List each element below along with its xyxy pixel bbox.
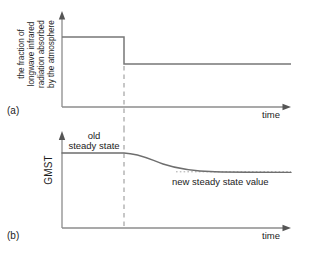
panel-a-y-axis-arrowhead bbox=[59, 11, 65, 20]
panel-a-y-axis-label-line-3: radiation absorbed bbox=[37, 4, 47, 104]
panel-b-y-axis-label: GMST bbox=[44, 135, 55, 205]
panel-b-gmst-curve bbox=[62, 153, 291, 172]
panel-a-y-axis-label-line-4: by the atmosphere bbox=[47, 4, 57, 104]
climate-response-figure: the fraction of longwave infrared radiat… bbox=[0, 0, 318, 256]
panel-b-y-axis-arrowhead bbox=[59, 131, 65, 140]
panel-a-x-axis-label: time bbox=[262, 110, 280, 120]
old-steady-state-line-2: steady state bbox=[67, 141, 121, 151]
panel-a-y-axis-label-line-1: the fraction of bbox=[17, 4, 27, 104]
panel-a-x-axis-arrowhead bbox=[283, 104, 292, 110]
panel-b-x-axis-label: time bbox=[262, 231, 280, 241]
panel-b-old-steady-state-annotation: old steady state bbox=[67, 131, 121, 152]
panel-b-label: (b) bbox=[7, 231, 19, 242]
panel-a-label: (a) bbox=[7, 106, 19, 117]
panel-a-graphic bbox=[59, 11, 291, 128]
panel-a-step-curve bbox=[62, 37, 291, 64]
panel-a-y-axis-label-line-2: longwave infrared bbox=[27, 4, 37, 104]
panel-a-y-axis-label: the fraction of longwave infrared radiat… bbox=[17, 4, 57, 104]
panel-b-x-axis-arrowhead bbox=[283, 225, 292, 231]
panel-b-new-steady-state-annotation: new steady state value bbox=[172, 177, 269, 187]
